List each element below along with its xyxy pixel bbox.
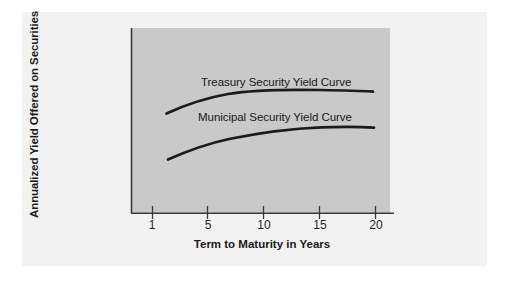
- x-tick-label-15: 15: [303, 218, 337, 232]
- treasury-curve-label: Treasury Security Yield Curve: [201, 76, 351, 88]
- y-axis-title: Annualized Yield Offered on Securities: [28, 18, 40, 218]
- municipal-curve-label: Municipal Security Yield Curve: [198, 111, 352, 123]
- x-axis-title: Term to Maturity in Years: [131, 238, 393, 250]
- x-tick-label-20: 20: [359, 218, 393, 232]
- x-tick-label-5: 5: [191, 218, 225, 232]
- x-tick-label-1: 1: [135, 218, 169, 232]
- x-tick-label-10: 10: [247, 218, 281, 232]
